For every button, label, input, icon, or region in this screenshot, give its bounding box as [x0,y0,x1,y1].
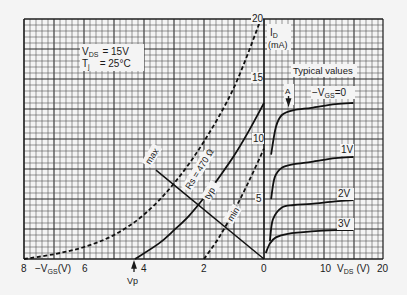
svg-text:20: 20 [377,263,389,274]
svg-text:10: 10 [320,263,332,274]
conditions-box: VDS= 15V Tj= 25°C [80,44,144,71]
svg-text:5: 5 [256,193,262,204]
jfet-characteristics-chart: VDS= 15V Tj= 25°C ID (mA) 20 15 10 5 Typ… [0,0,407,295]
svg-text:3V: 3V [338,218,351,229]
svg-text:VDS(V): VDS(V) [337,263,370,275]
svg-text:1V: 1V [341,144,354,155]
y-axis-label: ID (mA) [267,24,291,50]
svg-text:Vp: Vp [127,276,138,286]
typical-values-label: Typical values [291,64,357,77]
svg-text:8: 8 [21,263,27,274]
output-curve-3 [266,230,354,253]
svg-text:2V: 2V [338,188,351,199]
svg-text:20: 20 [252,13,264,24]
svg-text:15: 15 [252,72,264,83]
svg-text:2: 2 [201,263,207,274]
point-a-marker: A [284,84,294,105]
svg-text:4: 4 [141,263,147,274]
svg-text:10: 10 [253,133,265,144]
x-axis-labels: 8 −VGS(V) 6 4 2 0 10 VDS(V) 20 [21,263,389,275]
svg-text:A: A [285,87,291,96]
svg-text:−VGS(V): −VGS(V) [35,263,71,275]
grid [24,19,383,259]
svg-text:(mA): (mA) [268,40,288,50]
svg-text:6: 6 [82,263,88,274]
vp-marker: Vp [127,262,138,286]
svg-text:0: 0 [261,263,267,274]
svg-text:Typical values: Typical values [293,65,353,76]
